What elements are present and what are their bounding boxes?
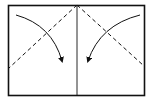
paper-outline — [9, 6, 145, 96]
right-fold-arrow-icon — [88, 15, 140, 61]
origami-fold-diagram — [0, 0, 152, 102]
right-valley-fold — [77, 5, 144, 66]
left-fold-arrow-icon — [16, 15, 62, 61]
left-valley-fold — [9, 5, 77, 68]
